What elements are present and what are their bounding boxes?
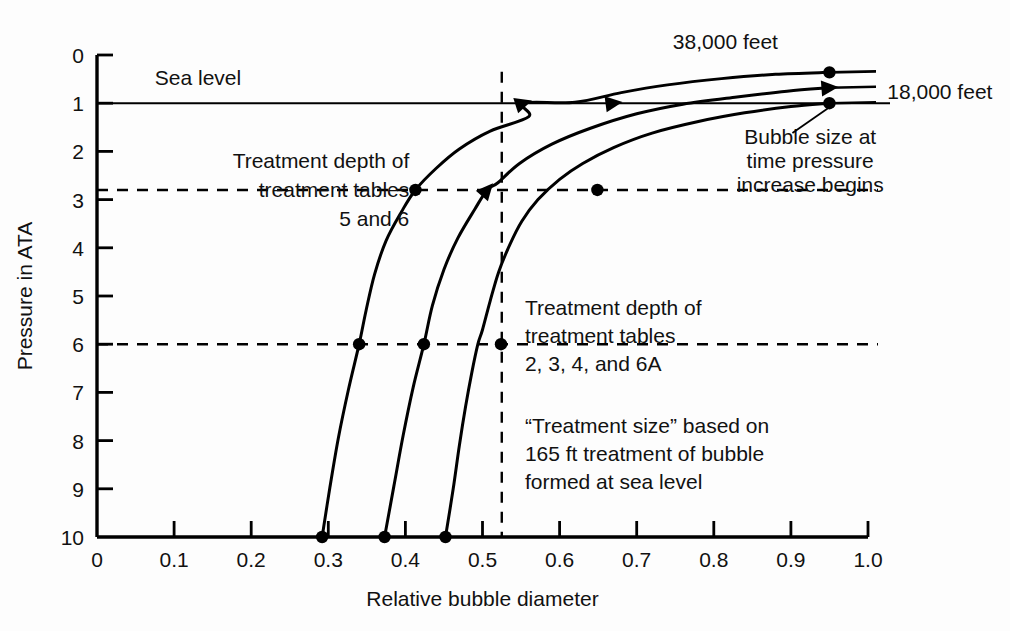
x-axis-title: Relative bubble diameter — [366, 587, 598, 610]
x-tick-label: 1.0 — [853, 548, 882, 571]
annotation-bubble-size-note-line2: time pressure — [747, 149, 874, 172]
annotation-sea-level: Sea level — [155, 66, 241, 89]
y-tick-label: 8 — [72, 430, 84, 453]
y-axis-title: Pressure in ATA — [13, 222, 36, 371]
annotation-treatment-5-6-line2: treatment tables — [259, 178, 410, 201]
x-tick-label: 0.8 — [699, 548, 728, 571]
marker-dot — [495, 338, 507, 350]
y-tick-label: 0 — [72, 44, 84, 67]
annotation-treatment-5-6-line1: Treatment depth of — [233, 149, 410, 172]
annotation-treatment-2346a-line1: Treatment depth of — [525, 296, 702, 319]
bubble-pressure-chart: 01234567891000.10.20.30.40.50.60.70.80.9… — [0, 0, 1010, 631]
y-tick-label: 6 — [72, 333, 84, 356]
marker-dot — [409, 184, 421, 196]
y-tick-label: 7 — [72, 381, 84, 404]
x-tick-label: 0.6 — [545, 548, 574, 571]
marker-dot — [418, 338, 430, 350]
annotation-treatment-size-line3: formed at sea level — [525, 470, 702, 493]
x-tick-label: 0.1 — [159, 548, 188, 571]
curve-tail-0 — [829, 102, 876, 103]
annotation-treatment-2346a-line2: treatment tables — [525, 324, 676, 347]
y-tick-label: 9 — [72, 478, 84, 501]
marker-dot — [823, 66, 835, 78]
annotation-treatment-size-line2: 165 ft treatment of bubble — [525, 442, 764, 465]
annotation-bubble-size-note-line1: Bubble size at — [744, 125, 876, 148]
y-tick-label: 10 — [61, 526, 84, 549]
chart-canvas: 01234567891000.10.20.30.40.50.60.70.80.9… — [0, 0, 1010, 631]
curve-tail-2 — [829, 71, 876, 72]
y-tick-label: 5 — [72, 285, 84, 308]
x-tick-label: 0.5 — [468, 548, 497, 571]
y-tick-label: 3 — [72, 189, 84, 212]
x-tick-label: 0 — [91, 548, 103, 571]
annotation-altitude-38000: 38,000 feet — [673, 30, 778, 53]
annotation-treatment-5-6-line3: 5 and 6 — [339, 207, 409, 230]
x-tick-label: 0.7 — [622, 548, 651, 571]
y-tick-label: 2 — [72, 140, 84, 163]
annotation-treatment-2346a-line3: 2, 3, 4, and 6A — [525, 352, 662, 375]
x-tick-label: 0.3 — [314, 548, 343, 571]
marker-dot — [353, 338, 365, 350]
annotation-altitude-18000: 18,000 feet — [887, 80, 992, 103]
annotation-bubble-size-note-line3: increase begins — [737, 173, 884, 196]
x-tick-label: 0.4 — [391, 548, 421, 571]
x-tick-label: 0.2 — [237, 548, 266, 571]
annotation-treatment-size-line1: “Treatment size” based on — [525, 414, 769, 437]
marker-dot — [591, 184, 603, 196]
x-tick-label: 0.9 — [776, 548, 805, 571]
y-tick-label: 1 — [72, 92, 84, 115]
y-tick-label: 4 — [72, 237, 84, 260]
